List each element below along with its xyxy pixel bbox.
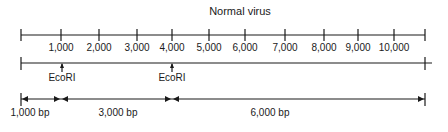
ecori-site-label: EcoRI: [158, 72, 185, 83]
ruler-tick-label: 2,000: [86, 42, 111, 53]
ruler-tick-label: 8,000: [311, 42, 336, 53]
ruler-tick-label: 9,000: [345, 42, 370, 53]
ruler-tick-label: 3,000: [124, 42, 149, 53]
fragment-size-label: 1,000 bp: [11, 107, 50, 118]
fragment-size-label: 6,000 bp: [251, 107, 290, 118]
ruler-tick-label: 10,000: [379, 42, 410, 53]
ruler-tick-label: 5,000: [196, 42, 221, 53]
ecori-site-label: EcoRI: [48, 72, 75, 83]
ruler-tick-label: 6,000: [232, 42, 257, 53]
ruler-tick-label: 1,000: [48, 42, 73, 53]
ecori-site-markers: [60, 63, 174, 72]
restriction-map-lines: [0, 0, 448, 132]
fragment-size-label: 3,000 bp: [99, 107, 138, 118]
ruler-tick-label: 7,000: [272, 42, 297, 53]
ruler-tick-label: 4,000: [159, 42, 184, 53]
